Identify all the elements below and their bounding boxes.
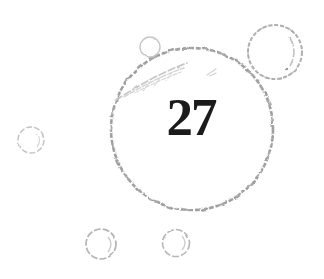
bubble-top-small [140, 37, 160, 57]
bubble-left-highlight [37, 133, 40, 147]
bubble-left [18, 127, 44, 153]
bubble-top-right-highlight [290, 38, 294, 66]
illustration-page: 27 [0, 0, 324, 279]
bubble-bottom-left [86, 229, 116, 259]
bubble-top-right [248, 25, 302, 79]
bubble-bottom-left-highlight [108, 237, 111, 252]
bubble-bottom-right-highlight [182, 236, 185, 250]
chapter-number: 27 [110, 91, 272, 144]
stray-mark [207, 69, 216, 76]
bubble-top-right-dot [286, 68, 288, 70]
bubble-bottom-right [163, 230, 190, 257]
